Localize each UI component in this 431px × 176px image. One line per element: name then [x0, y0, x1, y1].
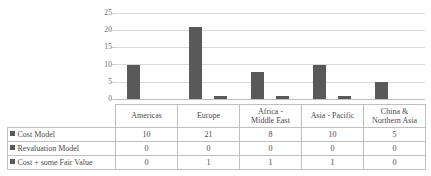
- bar-cost-model-americas: [127, 65, 140, 99]
- cell-revaluation-model-europe: 0: [178, 142, 240, 156]
- cell-revaluation-model-americas: 0: [116, 142, 178, 156]
- table-row: Revaluation Model 0 0 0 0 0: [8, 142, 426, 156]
- legend-label: Cost Model: [18, 130, 56, 139]
- cell-cost-model-asia-pacific: 10: [302, 128, 364, 142]
- plot-area: 25 20 15 10 5 0: [0, 0, 431, 104]
- cell-cost-fair-value-americas: 0: [116, 156, 178, 170]
- table-header-africa-middle-east: Africa - Middle East: [240, 105, 302, 128]
- cell-cost-model-europe: 21: [178, 128, 240, 142]
- table-header-europe: Europe: [178, 105, 240, 128]
- cell-cost-fair-value-europe: 1: [178, 156, 240, 170]
- cell-cost-fair-value-asia-pacific: 1: [302, 156, 364, 170]
- table-header-corner: [8, 105, 116, 128]
- bar-cost-model-asia-pacific: [313, 65, 326, 99]
- legend-label: Cost + some Fair Value: [18, 158, 93, 167]
- cell-cost-model-china-northern-asia: 5: [364, 128, 426, 142]
- bar-cost-some-fair-value-africa-middle-east: [276, 96, 289, 99]
- cell-cost-model-africa-middle-east: 8: [240, 128, 302, 142]
- bar-cost-model-africa-middle-east: [251, 72, 264, 100]
- bar-cost-model-china-northern-asia: [375, 82, 388, 99]
- bar-cost-some-fair-value-asia-pacific: [338, 96, 351, 99]
- header-line: Europe: [197, 111, 220, 120]
- table-row: Cost Model 10 21 8 10 5: [8, 128, 426, 142]
- table-row: Cost + some Fair Value 0 1 1 1 0: [8, 156, 426, 170]
- header-line: Asia - Pacific: [311, 111, 355, 120]
- header-line: Americas: [131, 111, 162, 120]
- cell-revaluation-model-china-northern-asia: 0: [364, 142, 426, 156]
- header-line: Middle East: [251, 116, 290, 125]
- chart-figure: 25 20 15 10 5 0 Americas Europe: [0, 0, 431, 176]
- header-line: Northern Asia: [372, 116, 417, 125]
- header-line: China &: [381, 107, 408, 116]
- legend-swatch-icon: [10, 131, 15, 136]
- table-header-china-northern-asia: China & Northern Asia: [364, 105, 426, 128]
- legend-item-revaluation-model[interactable]: Revaluation Model: [8, 142, 116, 156]
- data-table: Americas Europe Africa - Middle East Asi…: [7, 104, 426, 170]
- table-header-asia-pacific: Asia - Pacific: [302, 105, 364, 128]
- header-line: Africa -: [258, 107, 283, 116]
- legend-swatch-icon: [10, 145, 15, 150]
- legend-item-cost-model[interactable]: Cost Model: [8, 128, 116, 142]
- cell-revaluation-model-asia-pacific: 0: [302, 142, 364, 156]
- legend-label: Revaluation Model: [18, 144, 80, 153]
- bar-series-layer: [0, 0, 431, 104]
- bar-cost-some-fair-value-europe: [214, 96, 227, 99]
- table-header-row: Americas Europe Africa - Middle East Asi…: [8, 105, 426, 128]
- cell-cost-model-americas: 10: [116, 128, 178, 142]
- cell-revaluation-model-africa-middle-east: 0: [240, 142, 302, 156]
- table-header-americas: Americas: [116, 105, 178, 128]
- bar-cost-model-europe: [189, 27, 202, 99]
- legend-item-cost-plus-some-fair-value[interactable]: Cost + some Fair Value: [8, 156, 116, 170]
- legend-swatch-icon: [10, 159, 15, 164]
- cell-cost-fair-value-africa-middle-east: 1: [240, 156, 302, 170]
- cell-cost-fair-value-china-northern-asia: 0: [364, 156, 426, 170]
